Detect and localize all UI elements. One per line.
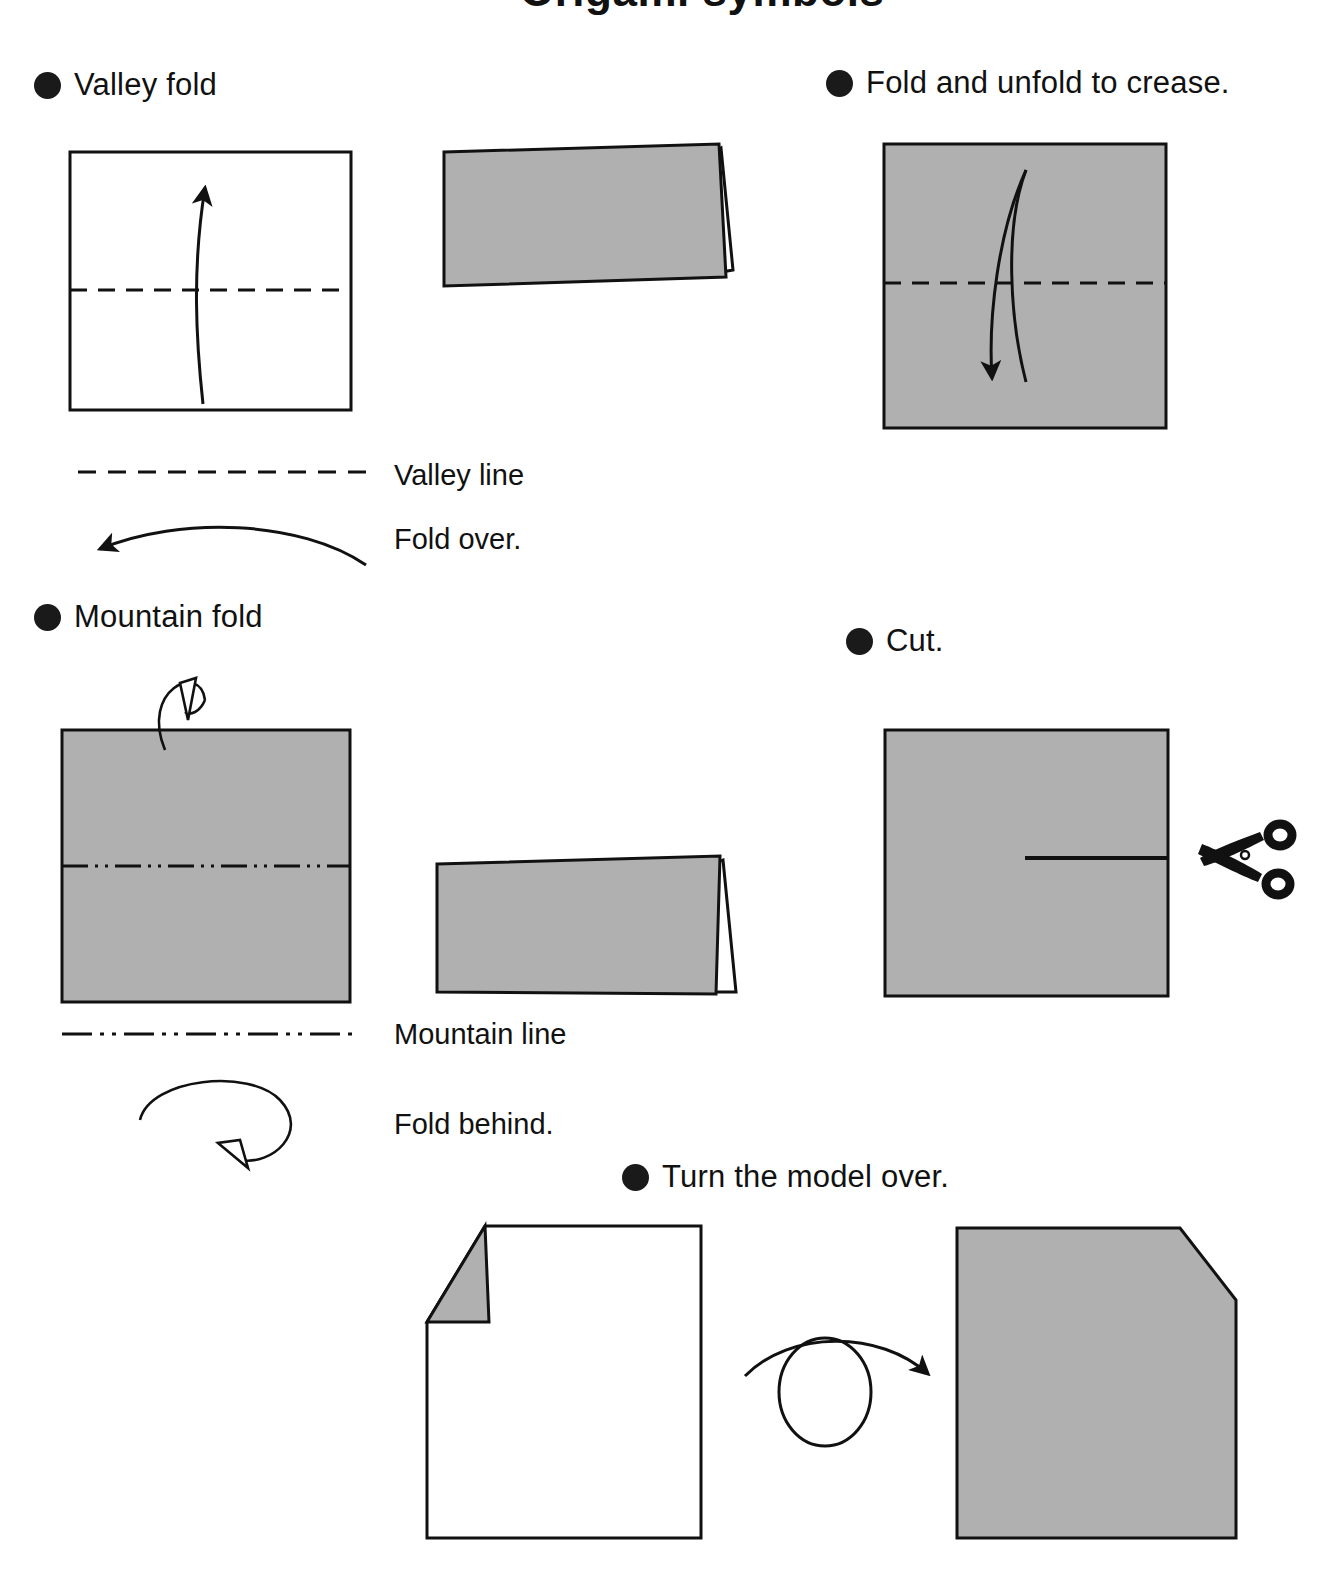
paper-square-white bbox=[70, 152, 351, 410]
bullet-icon bbox=[826, 70, 853, 97]
mountain-fold-before-diagram bbox=[62, 678, 350, 1002]
unfold-stroke-down bbox=[991, 170, 1026, 378]
mountain-fold-loop-tail bbox=[185, 700, 205, 714]
legend-fold-behind-sample bbox=[140, 1081, 291, 1168]
scissors-icon bbox=[1198, 824, 1292, 895]
caption-fold-and-unfold-label: Fold and unfold to crease. bbox=[866, 66, 1230, 100]
paper-rectangle-gray bbox=[437, 856, 720, 994]
legend-label-valley-line: Valley line bbox=[394, 459, 524, 491]
valley-fold-arrow bbox=[196, 188, 205, 404]
fold-over-arrow bbox=[100, 527, 366, 565]
folded-corner-gray bbox=[427, 1226, 489, 1322]
bullet-icon bbox=[622, 1164, 649, 1191]
turn-over-flip-arrow bbox=[745, 1338, 928, 1446]
paper-flap-white bbox=[707, 860, 736, 992]
caption-fold-and-unfold: Fold and unfold to crease. bbox=[826, 66, 1230, 100]
mountain-fold-loop bbox=[159, 683, 205, 750]
hollow-arrowhead bbox=[218, 1140, 248, 1168]
cut-diagram bbox=[885, 730, 1168, 996]
caption-valley-fold: Valley fold bbox=[34, 68, 217, 102]
legend-label-fold-over: Fold over. bbox=[394, 523, 521, 555]
legend-label-mountain-line: Mountain line bbox=[394, 1018, 567, 1050]
caption-cut-label: Cut. bbox=[886, 624, 944, 658]
fold-stroke-up bbox=[1012, 170, 1026, 382]
hollow-arrowhead bbox=[180, 678, 196, 720]
bullet-icon bbox=[34, 604, 61, 631]
paper-square-white bbox=[427, 1226, 701, 1538]
page-title-partial: Origami symbols bbox=[520, 0, 885, 16]
legend-fold-over-sample bbox=[100, 527, 366, 565]
flip-arc bbox=[745, 1341, 928, 1376]
origami-symbols-page: Origami symbols Valley fold Fold and unf… bbox=[0, 0, 1321, 1578]
caption-turn-over: Turn the model over. bbox=[622, 1160, 949, 1194]
caption-mountain-fold: Mountain fold bbox=[34, 600, 263, 634]
paper-square-gray-chamfered bbox=[957, 1228, 1236, 1538]
paper-square-gray bbox=[885, 730, 1168, 996]
paper-rectangle-gray bbox=[444, 144, 726, 286]
valley-fold-after-diagram bbox=[444, 144, 733, 286]
turn-over-before-diagram bbox=[427, 1226, 701, 1538]
caption-valley-fold-label: Valley fold bbox=[74, 68, 217, 102]
caption-turn-over-label: Turn the model over. bbox=[662, 1160, 949, 1194]
paper-square-gray bbox=[62, 730, 350, 1002]
paper-flap-white bbox=[707, 148, 733, 272]
legend-label-fold-behind: Fold behind. bbox=[394, 1108, 554, 1140]
bullet-icon bbox=[846, 628, 873, 655]
caption-mountain-fold-label: Mountain fold bbox=[74, 600, 263, 634]
turn-over-after-diagram bbox=[957, 1228, 1236, 1538]
paper-square-gray bbox=[884, 144, 1166, 428]
flip-loop-ellipse bbox=[779, 1338, 871, 1446]
mountain-fold-after-diagram bbox=[437, 856, 736, 994]
valley-fold-before-diagram bbox=[70, 152, 351, 410]
fold-behind-loop bbox=[140, 1081, 291, 1161]
fold-and-unfold-diagram bbox=[884, 144, 1166, 428]
caption-cut: Cut. bbox=[846, 624, 944, 658]
bullet-icon bbox=[34, 72, 61, 99]
